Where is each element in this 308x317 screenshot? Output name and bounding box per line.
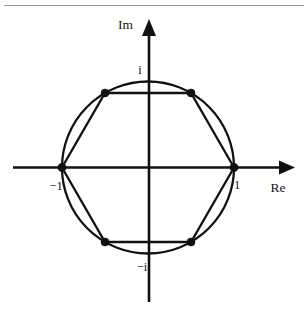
imaginary-axis-arrow-icon bbox=[142, 19, 156, 36]
root-marker bbox=[187, 89, 195, 97]
real-axis-arrow-icon bbox=[279, 161, 295, 175]
tick-label-negative-one: −1 bbox=[49, 179, 62, 193]
real-axis-label: Re bbox=[271, 180, 286, 195]
root-marker bbox=[101, 238, 109, 246]
complex-plane-diagram: Im Re i −i 1 −1 bbox=[0, 0, 308, 317]
tick-label-negative-i: −i bbox=[137, 260, 148, 274]
root-marker bbox=[101, 89, 109, 97]
root-marker bbox=[58, 163, 66, 171]
root-marker bbox=[187, 238, 195, 246]
figure-root: Im Re i −i 1 −1 bbox=[0, 0, 308, 317]
imaginary-axis-label: Im bbox=[118, 17, 133, 32]
tick-label-one: 1 bbox=[234, 178, 240, 192]
tick-label-i: i bbox=[138, 63, 142, 77]
root-marker bbox=[230, 163, 238, 171]
